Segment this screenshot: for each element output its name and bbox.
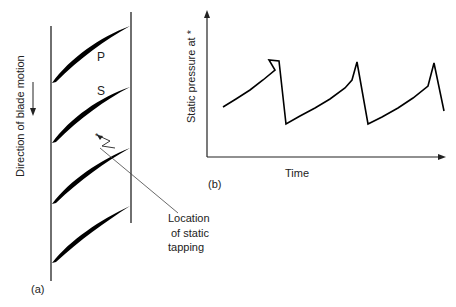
suction-side-label: S <box>97 84 105 98</box>
location-label-line2: of static <box>171 227 209 239</box>
y-axis-arrowhead <box>204 10 210 18</box>
location-label-line1: Location <box>168 212 210 224</box>
direction-label: Direction of blade motion <box>14 55 26 177</box>
x-axis-label: Time <box>285 167 309 179</box>
location-leader-line <box>100 148 178 213</box>
x-axis-arrowhead <box>438 154 446 160</box>
panel-a-caption: (a) <box>31 283 44 295</box>
direction-arrow-head <box>30 108 36 116</box>
tap-marker: * <box>95 131 99 141</box>
diagram-canvas <box>0 0 456 307</box>
pressure-trace <box>223 60 444 124</box>
blade-1 <box>52 26 130 83</box>
blade-4 <box>52 206 130 263</box>
y-axis-label: Static pressure at * <box>185 30 197 123</box>
blade-2 <box>52 87 130 143</box>
panel-b-caption: (b) <box>208 178 221 190</box>
blade-3 <box>52 148 130 204</box>
pressure-side-label: P <box>97 50 105 64</box>
location-label-line3: tapping <box>168 241 204 253</box>
